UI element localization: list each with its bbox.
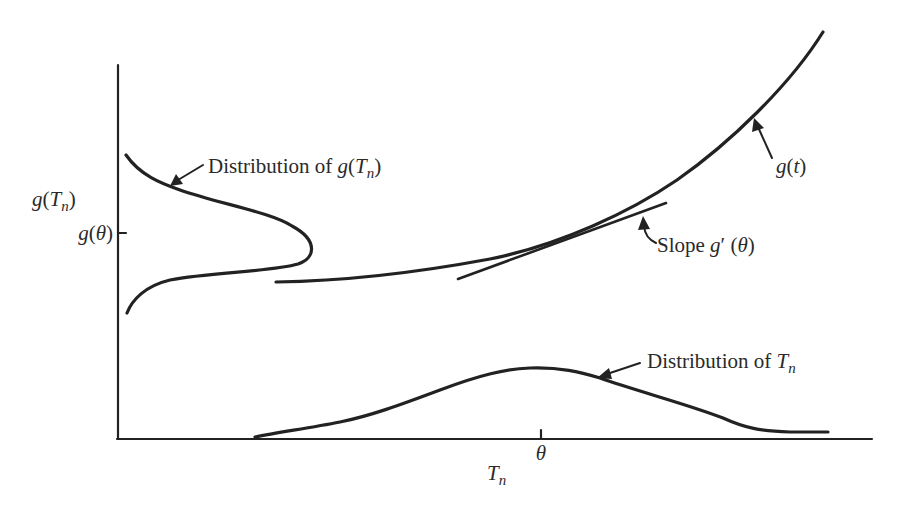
y-tick-label: g(θ): [78, 221, 113, 245]
arrow-dist-g-line: [178, 165, 203, 180]
arrow-g-t-head-icon: [752, 118, 764, 132]
axes: [117, 65, 872, 439]
label-distribution-tn: Distribution of Tn: [647, 349, 796, 376]
delta-method-diagram: Distribution of g(Tn) g(t) Slope g′ (θ) …: [0, 0, 898, 507]
arrow-slope-head-icon: [638, 216, 650, 230]
label-slope: Slope g′ (θ): [657, 233, 755, 257]
arrow-dist-t-line: [607, 363, 640, 374]
distribution-tn-curve: [255, 368, 828, 437]
tangent-line: [458, 203, 666, 279]
arrow-g-t-line: [758, 127, 772, 158]
x-tick-label: θ: [536, 441, 546, 465]
arrow-dist-t-head-icon: [597, 368, 612, 379]
distribution-g-tn-curve: [126, 155, 312, 313]
x-axis-label: Tn: [487, 461, 506, 488]
label-g-t: g(t): [776, 154, 806, 178]
arrow-dist-g-head-icon: [170, 174, 183, 186]
y-axis-label: g(Tn): [32, 187, 76, 214]
label-distribution-g-tn: Distribution of g(Tn): [208, 154, 381, 181]
